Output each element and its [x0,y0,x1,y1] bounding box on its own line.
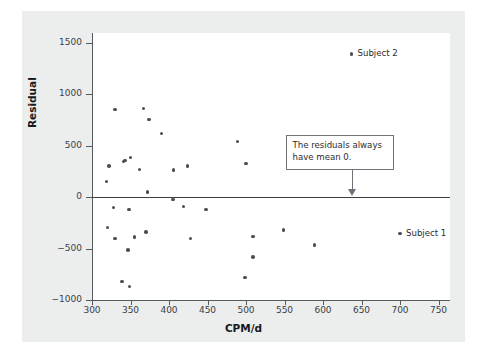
scatter-point-labeled [350,52,354,56]
scatter-point [243,276,247,280]
plot-area [92,33,450,300]
callout-arrow-icon [348,189,356,196]
x-tick-label: 300 [72,305,112,315]
scatter-point [251,255,255,259]
scatter-point [127,208,131,212]
y-tick-label: 0 [40,191,82,201]
scatter-point [126,248,130,252]
x-axis-title: CPM/d [0,322,487,334]
x-axis-line [92,300,450,301]
scatter-point [204,208,208,212]
zero-reference-line [92,197,450,198]
point-label-text: Subject 2 [358,48,398,58]
callout-annotation: The residuals always have mean 0. [286,135,394,170]
scatter-point [113,108,117,112]
y-tick-label: −500 [40,243,82,253]
x-tick-label: 600 [303,305,343,315]
scatter-point [244,162,248,166]
x-tick-label: 450 [188,305,228,315]
scatter-point [251,235,255,239]
x-tick-label: 650 [342,305,382,315]
scatter-point [313,243,317,247]
scatter-point [107,164,111,168]
scatter-point [144,230,148,234]
y-tick-mark [86,197,92,198]
y-tick-mark [86,146,92,147]
scatter-point [146,190,150,194]
x-tick-label: 700 [380,305,420,315]
scatter-point [186,164,190,168]
scatter-point [133,235,137,239]
y-tick-label: 1500 [40,37,82,47]
x-tick-label: 500 [226,305,266,315]
x-tick-label: 350 [111,305,151,315]
scatter-point [120,280,124,284]
x-tick-label: 750 [419,305,459,315]
callout-line-2: have mean 0. [292,152,388,164]
y-axis-title: Residual [26,77,38,128]
x-tick-label: 550 [265,305,305,315]
callout-line-1: The residuals always [292,140,388,152]
y-tick-mark [86,43,92,44]
x-tick-label: 400 [149,305,189,315]
y-tick-label: 500 [40,140,82,150]
scatter-point [171,198,175,202]
figure-root: 150010005000−500−1000 300350400450500550… [0,0,487,363]
scatter-point [113,237,117,241]
y-tick-label: 1000 [40,88,82,98]
y-tick-mark [86,94,92,95]
point-label-text: Subject 1 [406,228,446,238]
y-axis-line [92,33,93,301]
y-tick-mark [86,249,92,250]
y-tick-label: −1000 [40,294,82,304]
